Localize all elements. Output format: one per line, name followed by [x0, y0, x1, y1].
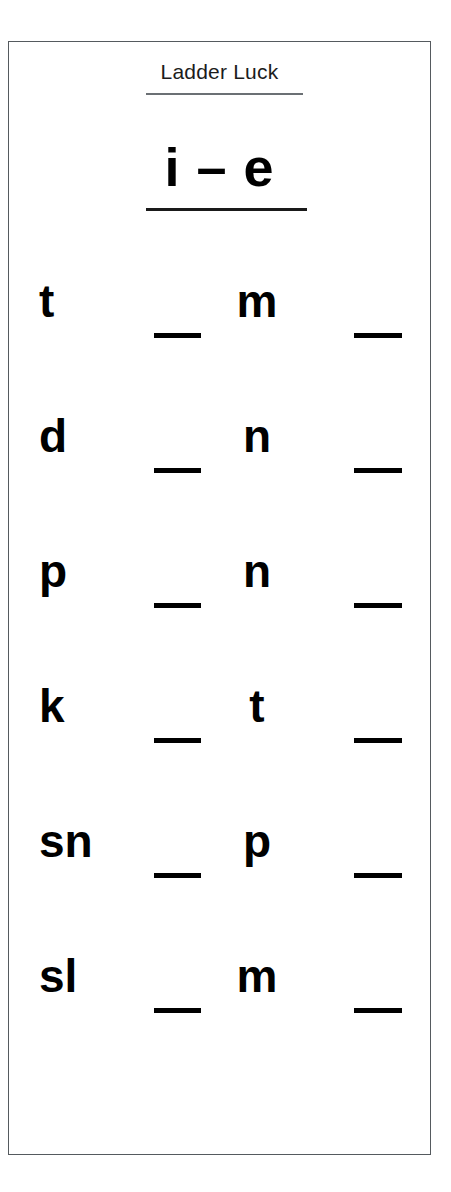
vowel-blank[interactable]: _: [143, 953, 205, 1137]
table-row: sl _ m _: [9, 953, 430, 1088]
onset-letters: k: [39, 683, 65, 729]
medial-consonant: n: [223, 413, 291, 459]
blank-value: _: [245, 1045, 246, 1046]
blank-line: [354, 468, 402, 473]
table-row: sn _ p _: [9, 818, 430, 953]
blank-value: _: [445, 370, 446, 371]
onset-letters: d: [39, 413, 67, 459]
blank-line: [154, 603, 201, 608]
blank-value: _: [245, 910, 246, 911]
worksheet-page: Ladder Luck i – e t _ m _ d _ n: [8, 41, 431, 1155]
medial-consonant: t: [223, 683, 291, 729]
blank-line: [154, 468, 201, 473]
blank-value: _: [245, 505, 246, 506]
onset-letters: t: [39, 278, 54, 324]
blank-line: [154, 333, 201, 338]
table-row: d _ n _: [9, 413, 430, 548]
onset-letters: p: [39, 548, 67, 594]
medial-consonant: p: [223, 818, 291, 864]
silent-e-blank[interactable]: _: [343, 953, 405, 1137]
onset-letters: sn: [39, 818, 93, 864]
table-row: k _ t _: [9, 683, 430, 818]
blank-line: [154, 873, 201, 878]
blank-line: [354, 333, 402, 338]
table-row: t _ m _: [9, 278, 430, 413]
medial-consonant: m: [223, 278, 291, 324]
onset-letters: sl: [39, 953, 77, 999]
medial-consonant: m: [223, 953, 291, 999]
blank-value: _: [445, 910, 446, 911]
blank-line: [354, 873, 402, 878]
blank-line: [354, 1008, 402, 1013]
blank-value: _: [245, 370, 246, 371]
blank-value: _: [445, 505, 446, 506]
page-title: Ladder Luck: [9, 61, 430, 82]
blank-line: [154, 738, 201, 743]
blank-line: [354, 738, 402, 743]
blank-value: _: [445, 1045, 446, 1046]
blank-line: [354, 603, 402, 608]
blank-value: _: [445, 775, 446, 776]
vowel-pattern-heading: i – e: [9, 140, 430, 194]
pattern-underline: [146, 208, 307, 211]
blank-value: _: [445, 640, 446, 641]
blank-value: _: [245, 775, 246, 776]
table-row: p _ n _: [9, 548, 430, 683]
word-row-list: t _ m _ d _ n _ p: [9, 278, 430, 1088]
medial-consonant: n: [223, 548, 291, 594]
blank-line: [154, 1008, 201, 1013]
title-underline: [146, 93, 303, 95]
blank-value: _: [245, 640, 246, 641]
